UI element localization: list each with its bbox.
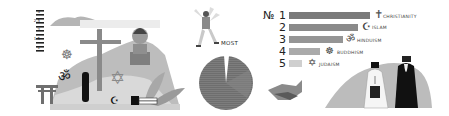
- rank-number: 2: [279, 22, 286, 33]
- rank-number: 1: [279, 10, 286, 21]
- rank-label: ISLAM: [372, 25, 387, 31]
- clergy-illustration: [260, 50, 449, 116]
- crescent-icon: ☪: [110, 95, 119, 106]
- rank-label: HINDUISM: [357, 38, 382, 44]
- dharma-wheel-icon: ☸: [61, 47, 73, 62]
- rank-bar-hinduism: [289, 36, 343, 43]
- star-of-david-icon: ✡: [110, 67, 125, 88]
- om-icon: ॐ: [346, 34, 355, 44]
- handshake-icon: [268, 80, 302, 100]
- temple-figure: [130, 28, 150, 65]
- pie-chart: [197, 50, 255, 112]
- cross-icon: ✝: [374, 10, 383, 20]
- pie-title: MOST: [221, 40, 238, 46]
- jumping-person-illustration: [190, 5, 230, 55]
- crescent-icon: ☪: [362, 22, 371, 32]
- om-icon: ॐ: [58, 68, 71, 84]
- robed-figure: [82, 72, 89, 102]
- rank-prefix: №: [263, 10, 274, 21]
- rank-label: CHRISTIANITY: [383, 14, 417, 20]
- rank-number: 3: [279, 34, 286, 45]
- rank-bar-islam: [289, 24, 358, 31]
- religion-hill-illustration: ॐ ☸ ✡ ☪: [0, 0, 200, 116]
- rank-bar-christianity: [289, 12, 370, 19]
